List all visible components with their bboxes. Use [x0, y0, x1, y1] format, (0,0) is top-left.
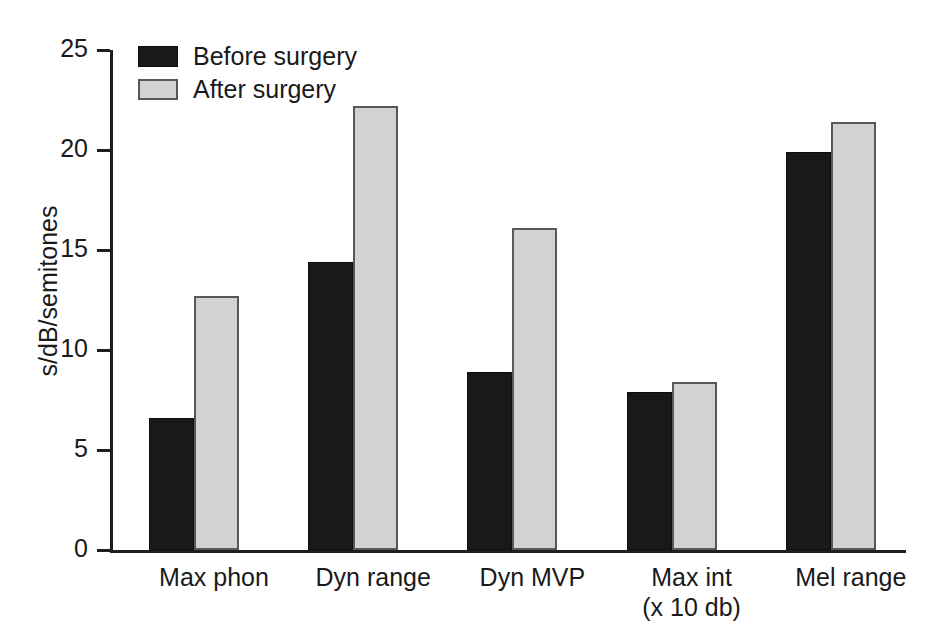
bar-before-2 — [467, 372, 512, 550]
y-tick-label-wrap: 15 — [0, 236, 88, 262]
plot-area — [110, 50, 906, 550]
x-axis-label-text: Mel range — [795, 563, 906, 591]
legend-swatch-after-icon — [138, 79, 178, 100]
bar-before-3 — [627, 392, 672, 550]
y-tick-mark — [97, 349, 110, 352]
x-axis-sublabel-text: (x 10 db) — [602, 592, 782, 622]
y-tick-label-wrap: 10 — [0, 336, 88, 362]
x-axis-label-0: Max phon — [124, 562, 304, 592]
y-tick-label-wrap: 25 — [0, 36, 88, 62]
y-tick-label: 20 — [60, 136, 88, 161]
x-axis-label-1: Dyn range — [283, 562, 463, 592]
x-axis-label-2: Dyn MVP — [442, 562, 622, 592]
y-tick-mark — [97, 449, 110, 452]
x-axis-label-4: Mel range — [761, 562, 940, 592]
x-axis-label-text: Dyn MVP — [480, 563, 586, 591]
x-axis-label-3: Max int(x 10 db) — [602, 562, 782, 622]
y-axis-title: s/dB/semitones — [35, 181, 61, 401]
y-tick-label-wrap: 0 — [0, 536, 88, 562]
legend-item-after: After surgery — [138, 74, 357, 104]
y-tick-label: 0 — [74, 536, 88, 561]
bar-after-3 — [672, 382, 717, 550]
bar-after-2 — [512, 228, 557, 550]
x-axis-label-text: Dyn range — [316, 563, 431, 591]
legend-item-before: Before surgery — [138, 41, 357, 71]
bar-before-0 — [149, 418, 194, 550]
x-axis-line — [110, 550, 906, 553]
bar-after-1 — [353, 106, 398, 550]
legend-label-after: After surgery — [193, 77, 336, 102]
legend-swatch-before-icon — [138, 46, 178, 67]
x-axis-label-text: Max phon — [159, 563, 269, 591]
bar-before-4 — [786, 152, 831, 550]
chart-legend: Before surgery After surgery — [138, 41, 357, 107]
bar-after-0 — [194, 296, 239, 550]
bar-after-4 — [831, 122, 876, 550]
y-tick-label: 15 — [60, 236, 88, 261]
y-tick-label-wrap: 20 — [0, 136, 88, 162]
y-tick-mark — [97, 249, 110, 252]
y-tick-label: 5 — [74, 436, 88, 461]
y-tick-label: 25 — [60, 36, 88, 61]
y-tick-mark — [97, 149, 110, 152]
x-axis-label-text: Max int — [651, 563, 732, 591]
legend-label-before: Before surgery — [193, 44, 357, 69]
bar-before-1 — [308, 262, 353, 550]
y-tick-mark — [97, 49, 110, 52]
y-tick-label-wrap: 5 — [0, 436, 88, 462]
bar-chart-figure: s/dB/semitones 0510152025 Max phonDyn ra… — [0, 0, 940, 633]
y-tick-label: 10 — [60, 336, 88, 361]
y-tick-mark — [97, 549, 110, 552]
